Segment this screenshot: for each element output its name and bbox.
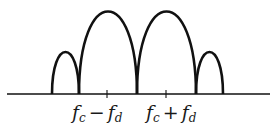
label-f: f [108,101,115,123]
lobe-left-large [79,12,137,95]
label-sub-d: d [115,111,123,125]
lobe-right-small [196,52,223,94]
label-fc-minus-fd: fc−fd [72,102,122,128]
label-f: f [146,101,153,123]
label-sub-c: c [153,111,160,125]
label-sub-d: d [189,111,197,125]
label-fc-plus-fd: fc+fd [146,102,196,128]
lobe-right-large [137,12,196,95]
minus-operator: − [89,101,105,123]
plus-operator: + [163,101,179,123]
label-sub-c: c [79,111,86,125]
label-f: f [72,101,79,123]
lobe-left-small [52,52,79,94]
label-f: f [182,101,189,123]
spectrum-diagram [0,0,280,136]
